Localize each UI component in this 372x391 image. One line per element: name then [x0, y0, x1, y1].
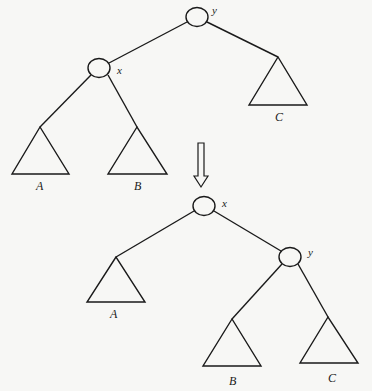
tree-after: x y A B C [87, 197, 358, 389]
edge-y-C [207, 22, 278, 57]
subtree-B-label: B [229, 374, 237, 388]
edge-x-A [40, 75, 91, 127]
subtree-A-label: A [35, 179, 44, 193]
tree-before: y x A B C [12, 4, 307, 193]
subtree-B [203, 319, 261, 366]
edge-y-x [109, 22, 187, 63]
node-y-label: y [211, 4, 217, 16]
subtree-B [108, 127, 167, 174]
node-x [88, 59, 110, 78]
edge-x-B [108, 75, 137, 127]
subtree-C [249, 57, 307, 105]
node-y-label: y [307, 246, 313, 258]
node-x-label: x [116, 64, 122, 76]
node-x [193, 197, 215, 216]
subtree-C [300, 317, 358, 363]
subtree-A [12, 127, 69, 174]
node-y [279, 248, 301, 267]
edge-x-A [116, 211, 194, 257]
subtree-C-label: C [328, 371, 337, 385]
subtree-B-label: B [134, 179, 142, 193]
subtree-A-label: A [109, 307, 118, 321]
node-y [186, 8, 208, 27]
edge-y-B [232, 264, 282, 319]
edge-y-C [298, 264, 328, 317]
rotation-diagram: y x A B C x y A B C [0, 0, 372, 391]
double-down-arrow-icon [194, 143, 208, 187]
edge-x-y [214, 211, 281, 251]
subtree-A [87, 257, 145, 302]
subtree-C-label: C [275, 110, 284, 124]
node-x-label: x [221, 197, 227, 209]
